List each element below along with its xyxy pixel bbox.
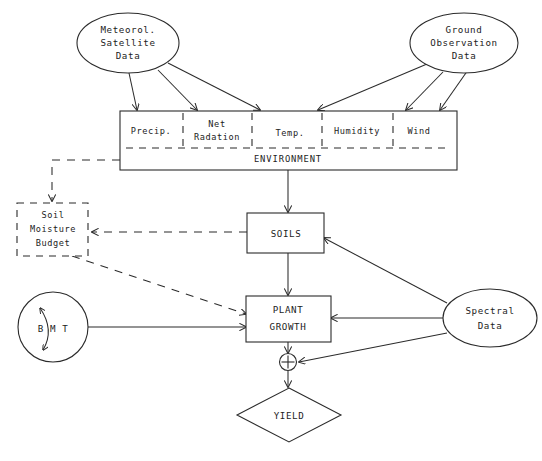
compartment-net-radiation-line-2: Radation <box>194 132 240 142</box>
meteorol-satellite-line-2: Satellite <box>100 37 155 48</box>
node-bmt[interactable]: B M T <box>18 292 88 362</box>
spectral-data-line-1: Spectral <box>465 305 514 316</box>
edge-soil-moisture-budget-to-plant-growth <box>72 256 246 314</box>
edge-spectral-to-soils <box>324 238 447 303</box>
compartment-humidity-label: Humidity <box>334 126 380 136</box>
node-environment[interactable]: Precip. Net Radation Temp. Humidity Wind… <box>120 111 457 170</box>
environment-compartment-humidity[interactable]: Humidity <box>334 126 380 136</box>
yield-label: YIELD <box>274 410 305 421</box>
flow-diagram-svg: Meteorol. Satellite Data Ground Observat… <box>0 0 542 461</box>
node-spectral-data[interactable]: Spectral Data <box>443 289 537 347</box>
compartment-temp-label: Temp. <box>276 128 305 138</box>
plant-growth-line-2: GROWTH <box>270 321 307 332</box>
node-yield[interactable]: YIELD <box>237 388 341 442</box>
environment-compartment-wind[interactable]: Wind <box>407 126 430 136</box>
ground-observation-line-3: Data <box>452 50 477 61</box>
compartment-wind-label: Wind <box>407 126 430 136</box>
edge-ground-to-humidity <box>406 72 443 110</box>
meteorol-satellite-line-3: Data <box>116 50 141 61</box>
soil-moisture-budget-line-2: Moisture <box>30 224 76 234</box>
soils-label: SOILS <box>271 228 302 239</box>
ground-observation-line-2: Observation <box>430 37 497 48</box>
compartment-net-radiation-line-1: Net <box>208 119 225 129</box>
node-meteorol-satellite-data[interactable]: Meteorol. Satellite Data <box>77 13 179 73</box>
bmt-label: B M T <box>38 323 69 334</box>
plant-growth-line-1: PLANT <box>273 304 304 315</box>
diagram-canvas: Meteorol. Satellite Data Ground Observat… <box>0 0 542 461</box>
node-soils[interactable]: SOILS <box>247 213 324 253</box>
soil-moisture-budget-line-1: Soil <box>41 210 64 220</box>
edge-met-to-netradiation <box>158 70 197 110</box>
node-soil-moisture-budget[interactable]: Soil Moisture Budget <box>17 203 88 256</box>
meteorol-satellite-line-1: Meteorol. <box>100 24 155 35</box>
node-summation[interactable] <box>280 354 297 371</box>
spectral-data-line-2: Data <box>478 320 503 331</box>
edge-met-to-precip <box>129 73 137 110</box>
environment-label: ENVIRONMENT <box>254 154 322 164</box>
edge-environment-to-soil-moisture-budget <box>52 160 120 201</box>
compartment-precip-label: Precip. <box>131 126 171 136</box>
node-ground-observation-data[interactable]: Ground Observation Data <box>410 13 518 73</box>
edge-ground-to-wind <box>440 70 468 110</box>
edge-ground-to-temp <box>318 64 427 110</box>
environment-compartment-temp[interactable]: Temp. <box>276 128 305 138</box>
soil-moisture-budget-line-3: Budget <box>36 238 71 248</box>
node-plant-growth[interactable]: PLANT GROWTH <box>246 296 331 342</box>
edge-met-to-temp <box>168 63 260 110</box>
environment-compartment-precip[interactable]: Precip. <box>131 126 171 136</box>
ground-observation-line-1: Ground <box>446 24 483 35</box>
